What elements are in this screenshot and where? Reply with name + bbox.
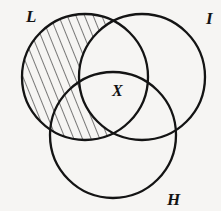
set-label-I: I	[206, 10, 213, 27]
venn-diagram-canvas	[0, 0, 221, 211]
shaded-region-L-minus-I	[0, 0, 221, 211]
set-label-H: H	[167, 191, 180, 208]
set-label-L: L	[26, 8, 36, 25]
region-label-X: X	[112, 83, 123, 99]
venn-diagram-figure: L I H X	[0, 0, 221, 211]
